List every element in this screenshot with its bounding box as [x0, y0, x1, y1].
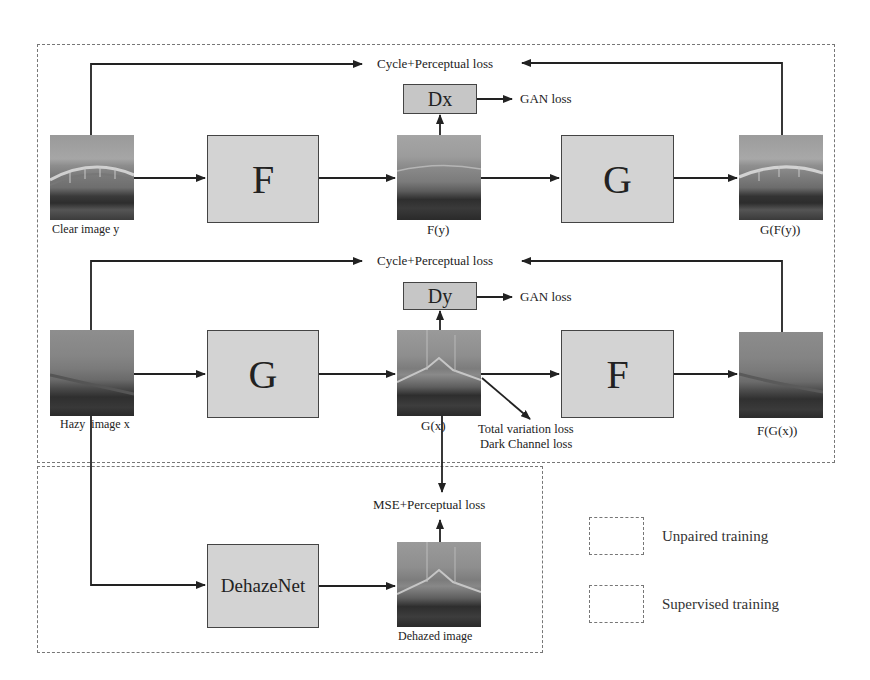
f-of-y-label: F(y)	[427, 222, 449, 238]
row2-cycle-perceptual-loss: Cycle+Perceptual loss	[377, 253, 493, 269]
g-of-x-image	[397, 330, 481, 416]
f-of-g-of-x-label: F(G(x))	[757, 423, 797, 439]
dehazed-image	[397, 542, 481, 627]
generator-f-block-row2: F	[561, 330, 674, 418]
row1-cycle-perceptual-loss: Cycle+Perceptual loss	[377, 56, 493, 72]
row1-gan-loss: GAN loss	[520, 91, 572, 107]
mse-perceptual-loss: MSE+Perceptual loss	[373, 497, 485, 513]
generator-f-block: F	[207, 135, 319, 223]
discriminator-dy-block: Dy	[403, 282, 477, 310]
total-variation-loss: Total variation loss	[478, 422, 574, 437]
g-of-x-label: G(x)	[421, 418, 446, 434]
g-of-f-of-y-image	[739, 135, 823, 220]
clear-image-label: Clear image y	[52, 222, 119, 237]
legend-unpaired-label: Unpaired training	[662, 528, 768, 545]
legend-supervised-label: Supervised training	[662, 596, 779, 613]
dark-channel-loss: Dark Channel loss	[480, 437, 572, 452]
mountain-icon	[397, 330, 481, 416]
legend-supervised-swatch	[589, 585, 644, 623]
clear-image-y	[50, 135, 134, 220]
bridge-icon	[50, 135, 134, 220]
row2-gan-loss: GAN loss	[520, 289, 572, 305]
discriminator-dx-block: Dx	[403, 84, 477, 114]
legend-unpaired-swatch	[589, 517, 644, 555]
generator-g-block-row2: G	[207, 330, 319, 418]
g-of-f-of-y-label: G(F(y))	[760, 222, 800, 238]
hazy-image-label: Hazy image x	[60, 417, 130, 432]
dehazed-image-label: Dehazed image	[398, 629, 472, 644]
hazy-image-x	[50, 330, 134, 416]
f-of-y-image	[397, 135, 481, 220]
generator-g-block: G	[561, 135, 674, 223]
f-of-g-of-x-image	[739, 332, 823, 418]
dehazenet-block: DehazeNet	[207, 544, 319, 628]
